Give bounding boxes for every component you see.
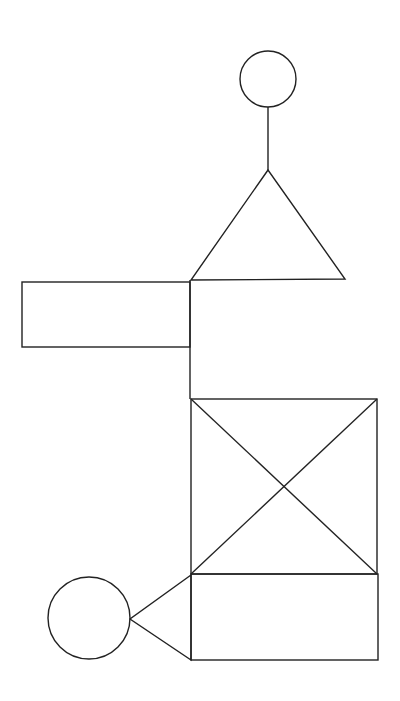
bottom-rectangle (191, 574, 378, 660)
bottom-triangle (130, 575, 191, 660)
top-triangle (191, 170, 345, 280)
bottom-circle (48, 577, 130, 659)
top-circle (240, 51, 296, 107)
left-rectangle (22, 282, 190, 347)
diagram-canvas (0, 0, 400, 701)
diagram-svg (0, 0, 400, 701)
